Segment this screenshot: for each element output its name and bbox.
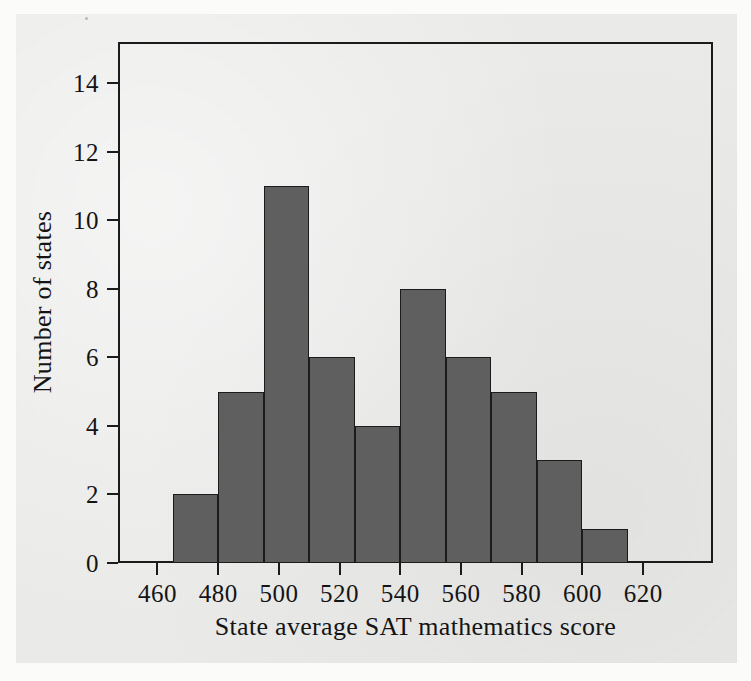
x-axis-tick-label: 620 bbox=[603, 581, 683, 606]
histogram-bar bbox=[355, 426, 401, 563]
x-axis-tick-mark bbox=[521, 563, 523, 575]
x-axis-tick-mark bbox=[399, 563, 401, 575]
histogram-bar bbox=[446, 357, 492, 563]
y-axis-tick-mark bbox=[107, 82, 118, 84]
x-axis-tick-mark bbox=[460, 563, 462, 575]
histogram-bars bbox=[118, 42, 713, 563]
y-axis-tick-mark bbox=[107, 288, 118, 290]
y-axis-title: Number of states bbox=[28, 122, 58, 482]
y-axis-tick-label: 14 bbox=[39, 71, 99, 96]
y-axis-tick-label: 2 bbox=[39, 482, 99, 507]
x-axis-tick-mark bbox=[156, 563, 158, 575]
y-axis-tick-label: 0 bbox=[39, 551, 99, 576]
histogram-bar bbox=[582, 529, 628, 563]
histogram-bar bbox=[491, 392, 537, 563]
x-axis-tick-mark bbox=[278, 563, 280, 575]
histogram-figure: 02468101214 460480500520540560580600620 … bbox=[0, 0, 751, 681]
histogram-bar bbox=[218, 392, 264, 563]
y-axis-tick-mark bbox=[107, 562, 118, 564]
histogram-bar bbox=[309, 357, 355, 563]
x-axis-tick-mark bbox=[339, 563, 341, 575]
histogram-bar bbox=[264, 186, 310, 563]
y-axis-tick-mark bbox=[107, 151, 118, 153]
x-axis-title: State average SAT mathematics score bbox=[118, 612, 713, 642]
x-axis-tick-mark bbox=[581, 563, 583, 575]
x-axis-tick-mark bbox=[642, 563, 644, 575]
histogram-bar bbox=[400, 289, 446, 563]
histogram-bar bbox=[537, 460, 583, 563]
y-axis-tick-mark bbox=[107, 425, 118, 427]
scanned-page: 02468101214 460480500520540560580600620 … bbox=[0, 0, 751, 681]
y-axis-tick-mark bbox=[107, 219, 118, 221]
histogram-bar bbox=[173, 494, 219, 563]
x-axis-tick-mark bbox=[217, 563, 219, 575]
y-axis-tick-mark bbox=[107, 356, 118, 358]
y-axis-tick-mark bbox=[107, 493, 118, 495]
